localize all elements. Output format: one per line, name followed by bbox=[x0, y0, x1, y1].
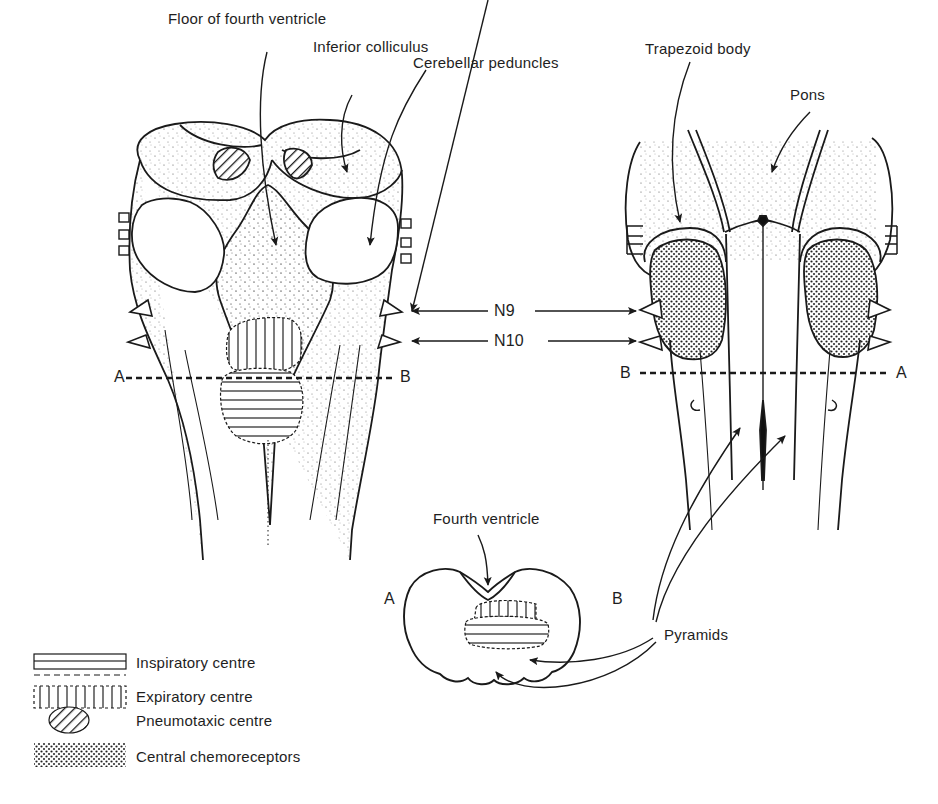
section-label-dorsal-right: B bbox=[400, 368, 411, 386]
legend-expiratory-centre: Expiratory centre bbox=[136, 688, 253, 705]
label-n10: N10 bbox=[494, 332, 524, 350]
legend-central-chemoreceptors: Central chemoreceptors bbox=[136, 748, 300, 765]
section-label-dorsal-left: A bbox=[114, 368, 125, 386]
label-fourth-ventricle: Fourth ventricle bbox=[433, 510, 540, 527]
section-label-ventral-left: B bbox=[620, 364, 631, 382]
label-floor-of-fourth-ventricle: Floor of fourth ventricle bbox=[168, 10, 326, 27]
legend-pneumotaxic-centre: Pneumotaxic centre bbox=[136, 712, 272, 729]
label-cerebellar-peduncles: Cerebellar peduncles bbox=[413, 54, 559, 71]
ventral-view bbox=[626, 130, 897, 530]
diagram-drawing bbox=[0, 0, 938, 804]
legend-inspiratory-centre: Inspiratory centre bbox=[136, 654, 255, 671]
label-inferior-colliculus: Inferior colliculus bbox=[313, 38, 429, 55]
cross-section-view bbox=[404, 569, 580, 684]
brainstem-diagram: Floor of fourth ventricle Inferior colli… bbox=[0, 0, 938, 804]
label-n9: N9 bbox=[494, 302, 515, 320]
cross-section-side-left: A bbox=[384, 590, 395, 608]
label-pons: Pons bbox=[790, 86, 825, 103]
label-pyramids: Pyramids bbox=[664, 626, 728, 643]
legend-swatches bbox=[34, 654, 126, 767]
section-label-ventral-right: A bbox=[896, 364, 907, 382]
label-trapezoid-body: Trapezoid body bbox=[645, 40, 751, 57]
cross-section-side-right: B bbox=[612, 590, 623, 608]
